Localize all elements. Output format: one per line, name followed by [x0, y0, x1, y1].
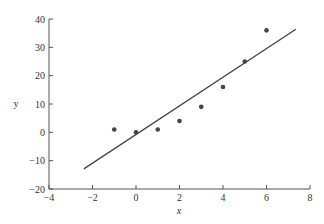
data-point	[199, 105, 204, 110]
data-point	[134, 130, 139, 135]
data-point	[221, 85, 226, 90]
y-tick-label: 40	[35, 14, 45, 25]
x-tick-label: 6	[264, 192, 269, 203]
x-tick-label: 0	[134, 192, 139, 203]
x-tick-label: 2	[177, 192, 182, 203]
x-tick-label: −2	[87, 192, 98, 203]
y-axis-label: y	[14, 98, 19, 109]
y-tick-label: −10	[29, 155, 45, 166]
data-point	[264, 28, 269, 33]
data-point	[112, 127, 117, 132]
fitted-line	[84, 29, 296, 169]
data-point	[155, 127, 160, 132]
y-tick-label: 10	[35, 99, 45, 110]
scatter-chart: −4−202468 −20−10010203040 x y	[0, 0, 324, 224]
data-points	[112, 28, 269, 135]
x-axis-label: x	[176, 205, 182, 216]
y-tick-label: 20	[35, 70, 45, 81]
x-axis-ticks: −4−202468	[44, 185, 313, 203]
y-tick-label: 30	[35, 42, 45, 53]
data-point	[177, 119, 182, 124]
y-tick-label: −20	[29, 184, 45, 195]
x-tick-label: 4	[221, 192, 226, 203]
x-tick-label: 8	[308, 192, 313, 203]
axes	[49, 19, 310, 189]
regression-line	[84, 29, 296, 169]
data-point	[242, 59, 247, 64]
x-tick-label: −4	[44, 192, 55, 203]
y-tick-label: 0	[40, 127, 45, 138]
